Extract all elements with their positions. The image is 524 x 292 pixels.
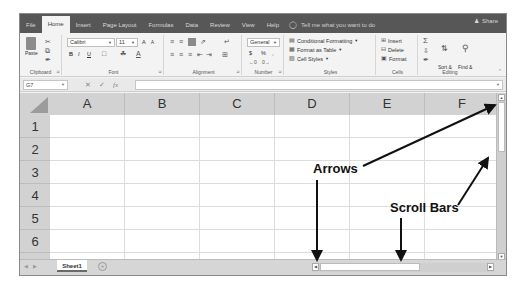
delete-cells-button[interactable]: ⊟ Delete — [381, 46, 404, 53]
sheet-tab-sheet1[interactable]: Sheet1 — [57, 260, 87, 272]
tab-review[interactable]: Review — [204, 17, 236, 33]
tell-me-box[interactable]: ◯ Tell me what you want to do — [289, 17, 375, 33]
group-alignment: ≡ ≡ ⇗ ↵ ≡ ≡ ≡ ⇤ ⇥ ⊞ Alignment ⇲ — [166, 35, 242, 75]
add-sheet-button[interactable]: + — [98, 262, 107, 271]
font-launcher-icon[interactable]: ⇲ — [158, 69, 161, 74]
ribbon: Paste ✂ ⧉ ✒ Clipboard ⇲ Calibri ▼ 11 ▼ A… — [20, 33, 506, 77]
comma-button[interactable]: , — [272, 50, 274, 56]
enter-icon[interactable]: ✓ — [99, 80, 105, 90]
format-painter-icon[interactable]: ✒ — [45, 56, 51, 63]
tab-data[interactable]: Data — [179, 17, 204, 33]
chevron-down-icon: ▼ — [354, 38, 358, 43]
vertical-scrollbar[interactable]: ▲ ▼ — [496, 93, 506, 261]
grow-font-button[interactable]: A — [142, 39, 146, 45]
tab-file[interactable]: File — [20, 17, 42, 33]
align-bottom-icon[interactable] — [188, 38, 196, 46]
cells-label: Cells — [378, 69, 417, 75]
italic-button[interactable]: I — [78, 51, 80, 57]
merge-center-icon[interactable]: ⊞ — [222, 51, 228, 58]
collapse-ribbon-icon[interactable]: ⌃ — [498, 68, 502, 74]
conditional-formatting-button[interactable]: ▤ Conditional Formatting ▼ — [289, 37, 358, 44]
next-sheet-icon[interactable]: ▶ — [33, 263, 37, 269]
tab-page-layout[interactable]: Page Layout — [97, 17, 143, 33]
expand-formula-icon[interactable]: ▼ — [496, 81, 500, 89]
copy-icon[interactable]: ⧉ — [45, 47, 50, 54]
column-header-c[interactable]: C — [200, 93, 275, 115]
wrap-text-icon[interactable]: ↵ — [224, 38, 230, 45]
align-center-icon[interactable]: ≡ — [179, 51, 183, 58]
horizontal-scroll-thumb[interactable] — [320, 263, 420, 271]
row-header-6[interactable]: 6 — [20, 230, 50, 253]
font-color-icon[interactable]: A — [136, 50, 141, 57]
decrease-decimal-icon[interactable]: 0→ — [262, 59, 270, 66]
align-middle-icon[interactable]: ≡ — [179, 38, 183, 45]
tab-view[interactable]: View — [236, 17, 261, 33]
row-header-4[interactable]: 4 — [20, 184, 50, 207]
format-as-table-button[interactable]: ▦ Format as Table ▼ — [289, 46, 342, 53]
number-launcher-icon[interactable]: ⇲ — [278, 69, 281, 74]
formula-input[interactable]: ▼ — [135, 80, 503, 90]
group-cells: ⊞ Insert ⊟ Delete ▣ Format Cells — [378, 35, 418, 75]
cancel-icon[interactable]: ✕ — [85, 80, 91, 90]
alignment-launcher-icon[interactable]: ⇲ — [236, 69, 239, 74]
clear-icon[interactable]: ✒ — [423, 56, 429, 63]
tell-me-text: Tell me what you want to do — [301, 22, 375, 28]
align-left-icon[interactable]: ≡ — [170, 51, 174, 58]
tab-help[interactable]: Help — [261, 17, 285, 33]
tab-home[interactable]: Home — [42, 16, 70, 33]
formula-bar: G7 ▼ ✕ ✓ fx ▼ — [20, 78, 506, 92]
increase-decimal-icon[interactable]: ←0 — [249, 59, 257, 66]
column-header-d[interactable]: D — [275, 93, 350, 115]
scroll-up-arrow-icon[interactable]: ▲ — [498, 94, 505, 101]
increase-indent-icon[interactable]: ⇥ — [206, 51, 212, 58]
scroll-right-arrow-icon[interactable]: ▶ — [487, 263, 494, 271]
group-editing: Σ ⇩ ✒ ⇅ Sort & Filter ⚲ Find & Select Ed… — [420, 35, 480, 75]
row-headers: 1 2 3 4 5 6 — [20, 115, 50, 261]
column-header-e[interactable]: E — [350, 93, 425, 115]
row-header-2[interactable]: 2 — [20, 138, 50, 161]
underline-button[interactable]: U — [87, 51, 91, 57]
bold-button[interactable]: B — [69, 51, 73, 57]
name-box[interactable]: G7 ▼ — [23, 80, 68, 90]
currency-button[interactable]: $ — [249, 50, 252, 56]
orientation-icon[interactable]: ⇗ — [200, 38, 206, 45]
fill-icon[interactable]: ⇩ — [423, 47, 429, 54]
font-size-select[interactable]: 11 ▼ — [116, 38, 138, 47]
row-header-3[interactable]: 3 — [20, 161, 50, 184]
insert-cells-button[interactable]: ⊞ Insert — [381, 37, 402, 44]
cell-styles-button[interactable]: ▧ Cell Styles ▼ — [289, 55, 329, 62]
align-top-icon[interactable]: ≡ — [170, 38, 174, 45]
cell-area[interactable] — [50, 115, 498, 261]
shrink-font-button[interactable]: A — [151, 40, 154, 45]
prev-sheet-icon[interactable]: ◀ — [24, 263, 28, 269]
font-name-select[interactable]: Calibri ▼ — [67, 38, 115, 47]
clipboard-label: Clipboard — [20, 69, 61, 75]
autosum-icon[interactable]: Σ — [423, 37, 428, 44]
magnifier-icon: ⚲ — [462, 45, 469, 52]
insert-function-icon[interactable]: fx — [113, 80, 118, 90]
row-header-5[interactable]: 5 — [20, 207, 50, 230]
column-header-a[interactable]: A — [50, 93, 125, 115]
column-header-b[interactable]: B — [125, 93, 200, 115]
fill-color-icon[interactable]: ☘ — [120, 50, 126, 57]
column-header-f[interactable]: F — [425, 93, 498, 115]
scroll-left-arrow-icon[interactable]: ◀ — [312, 263, 319, 271]
borders-icon[interactable]: □ — [102, 50, 106, 57]
align-right-icon[interactable]: ≡ — [188, 51, 192, 58]
group-font: Calibri ▼ 11 ▼ A A B I U □ ☘ A Font ⇲ — [64, 35, 164, 75]
vertical-scroll-thumb[interactable] — [498, 102, 505, 152]
paste-button[interactable]: Paste — [25, 37, 38, 56]
clipboard-launcher-icon[interactable]: ⇲ — [56, 69, 59, 74]
share-button[interactable]: ♟ Share — [474, 17, 498, 24]
tab-formulas[interactable]: Formulas — [142, 17, 179, 33]
percent-button[interactable]: % — [261, 50, 266, 56]
decrease-indent-icon[interactable]: ⇤ — [197, 51, 203, 58]
select-all-button[interactable] — [20, 93, 50, 115]
cut-icon[interactable]: ✂ — [45, 38, 51, 45]
number-format-select[interactable]: General ▼ — [247, 38, 280, 47]
format-cells-button[interactable]: ▣ Format — [381, 55, 406, 62]
scroll-bars-annotation-label: Scroll Bars — [390, 200, 459, 215]
tab-insert[interactable]: Insert — [70, 17, 97, 33]
horizontal-scrollbar[interactable]: ◀ ▶ — [312, 263, 494, 272]
row-header-1[interactable]: 1 — [20, 115, 50, 138]
